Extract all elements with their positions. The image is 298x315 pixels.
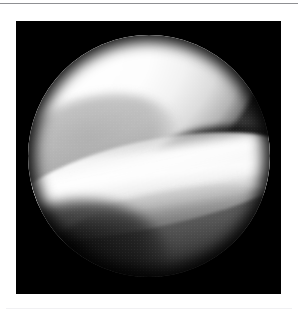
arthroscope-circular-field — [28, 35, 270, 277]
top-horizontal-rule — [0, 3, 298, 4]
scope-image-canvas — [28, 35, 270, 277]
arthroscopy-figure — [16, 21, 281, 294]
bottom-horizontal-rule — [6, 308, 292, 309]
